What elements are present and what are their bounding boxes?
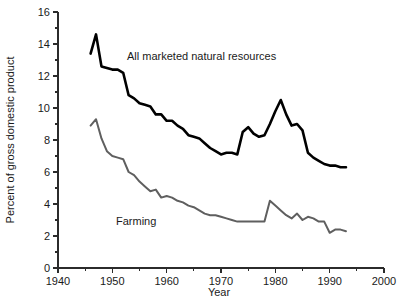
x-tick-label: 1960 bbox=[154, 275, 178, 287]
x-tick-label: 2000 bbox=[372, 275, 396, 287]
x-axis-ticks bbox=[58, 268, 384, 273]
chart-container: 0246810121416 19401950196019701980199020… bbox=[0, 0, 402, 303]
y-tick-label: 14 bbox=[38, 38, 50, 50]
y-tick-label: 12 bbox=[38, 70, 50, 82]
y-axis-tick-labels: 0246810121416 bbox=[38, 6, 50, 274]
x-tick-label: 1940 bbox=[46, 275, 70, 287]
y-tick-label: 10 bbox=[38, 102, 50, 114]
series-label-farming: Farming bbox=[116, 215, 156, 227]
x-tick-label: 1990 bbox=[317, 275, 341, 287]
line-chart: 0246810121416 19401950196019701980199020… bbox=[0, 0, 402, 303]
y-axis-ticks bbox=[53, 12, 58, 268]
y-tick-label: 2 bbox=[44, 230, 50, 242]
series-label-all-marketed-natural-resources: All marketed natural resources bbox=[127, 50, 277, 62]
y-tick-label: 6 bbox=[44, 166, 50, 178]
y-tick-label: 8 bbox=[44, 134, 50, 146]
y-tick-label: 16 bbox=[38, 6, 50, 18]
x-tick-label: 1950 bbox=[100, 275, 124, 287]
data-series-group bbox=[91, 34, 346, 232]
y-axis-title: Percent of gross domestic product bbox=[4, 57, 16, 224]
x-axis-title: Year bbox=[208, 286, 231, 298]
x-tick-label: 1980 bbox=[263, 275, 287, 287]
y-tick-label: 0 bbox=[44, 262, 50, 274]
y-tick-label: 4 bbox=[44, 198, 50, 210]
